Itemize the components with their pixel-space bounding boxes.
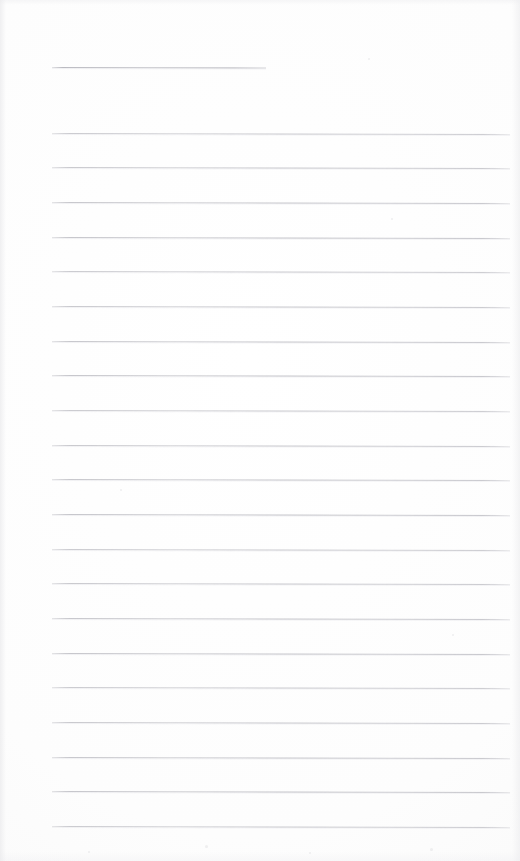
ruling-line <box>52 237 510 239</box>
ruling-line <box>52 549 510 551</box>
ruling-line <box>52 479 510 481</box>
scan-edge-left <box>0 0 6 861</box>
scan-speck <box>120 489 122 491</box>
ruling-line <box>52 791 510 793</box>
ruling-line <box>52 514 510 516</box>
ruling-line <box>52 757 510 759</box>
paper-texture <box>0 0 520 861</box>
ruling-line <box>52 826 510 828</box>
ruling-line <box>52 375 510 377</box>
ruling-line <box>52 271 510 273</box>
ruling-line <box>52 410 510 412</box>
ruling-line <box>52 653 510 655</box>
ruling-line <box>52 167 510 169</box>
ruling-line <box>52 583 510 585</box>
scan-edge-bottom <box>0 851 520 861</box>
scanned-page <box>0 0 520 861</box>
ruling-line <box>52 618 510 620</box>
scan-speck <box>309 852 311 854</box>
scan-speck <box>391 218 393 220</box>
ruling-line <box>52 722 510 724</box>
scan-speck <box>368 58 370 60</box>
header-rule <box>52 67 266 68</box>
scan-edge-right <box>512 0 520 861</box>
ruling-line <box>52 445 510 447</box>
scan-speck <box>205 845 208 848</box>
ruling-line <box>52 306 510 308</box>
ruling-line <box>52 687 510 689</box>
scan-speck <box>452 634 454 636</box>
ruling-line <box>52 133 510 135</box>
scan-edge-top <box>0 0 520 5</box>
scan-speck <box>430 848 433 851</box>
ruling-line <box>52 341 510 343</box>
ruling-line <box>52 202 510 204</box>
scan-speck <box>88 851 90 853</box>
